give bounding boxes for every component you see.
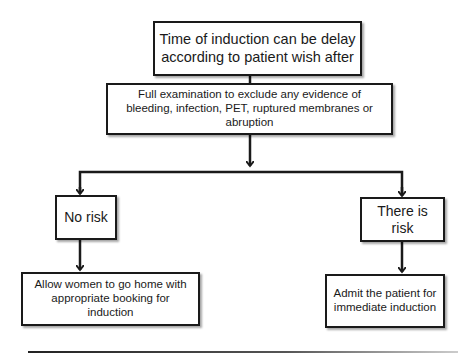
- node-exam-text: Full examination to exclude any evidence…: [114, 88, 385, 129]
- node-no-risk: No risk: [55, 195, 117, 240]
- node-admit-text: Admit the patient for immediate inductio…: [333, 287, 437, 315]
- node-start: Time of induction can be delay according…: [153, 21, 362, 76]
- node-start-text: Time of induction can be delay according…: [159, 31, 356, 66]
- node-risk-text: There is risk: [368, 203, 437, 237]
- split-line: [80, 172, 402, 193]
- node-risk: There is risk: [360, 197, 445, 242]
- node-admit: Admit the patient for immediate inductio…: [325, 274, 445, 328]
- node-no-risk-text: No risk: [64, 209, 108, 226]
- node-exam: Full examination to exclude any evidence…: [106, 83, 393, 135]
- node-home-text: Allow women to go home with appropriate …: [31, 278, 190, 319]
- node-home: Allow women to go home with appropriate …: [21, 272, 200, 326]
